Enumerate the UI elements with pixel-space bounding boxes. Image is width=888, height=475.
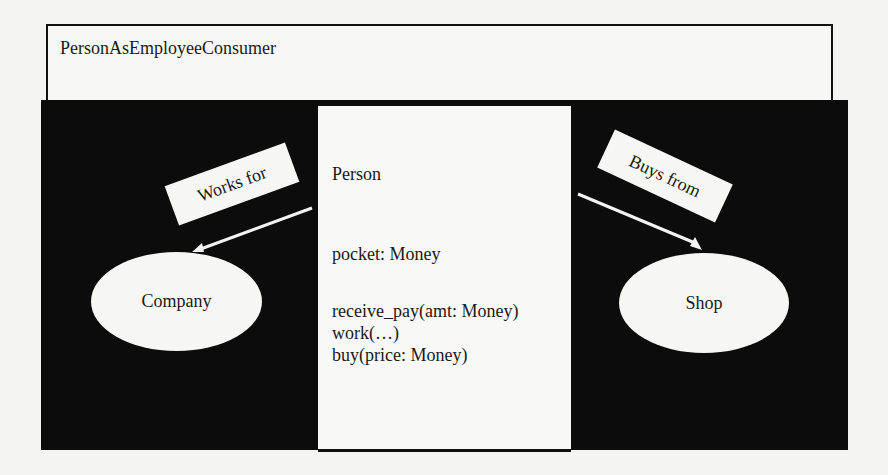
shop-label: Shop [685,293,722,314]
operation-work: work(…) [332,322,518,344]
works-for-arrowhead-icon [192,243,204,252]
shop-node: Shop [619,253,789,353]
person-class-name: Person [332,164,381,185]
operation-receive-pay: receive_pay(amt: Money) [332,300,518,322]
buys-from-arrowhead-icon [690,237,702,250]
person-operations: receive_pay(amt: Money) work(…) buy(pric… [332,300,518,366]
company-node: Company [91,252,262,351]
company-label: Company [142,291,212,312]
works-for-arrow-line [198,208,312,250]
person-class-box: Person pocket: Money receive_pay(amt: Mo… [318,106,571,452]
person-attribute: pocket: Money [332,244,440,265]
operation-buy: buy(price: Money) [332,344,518,366]
